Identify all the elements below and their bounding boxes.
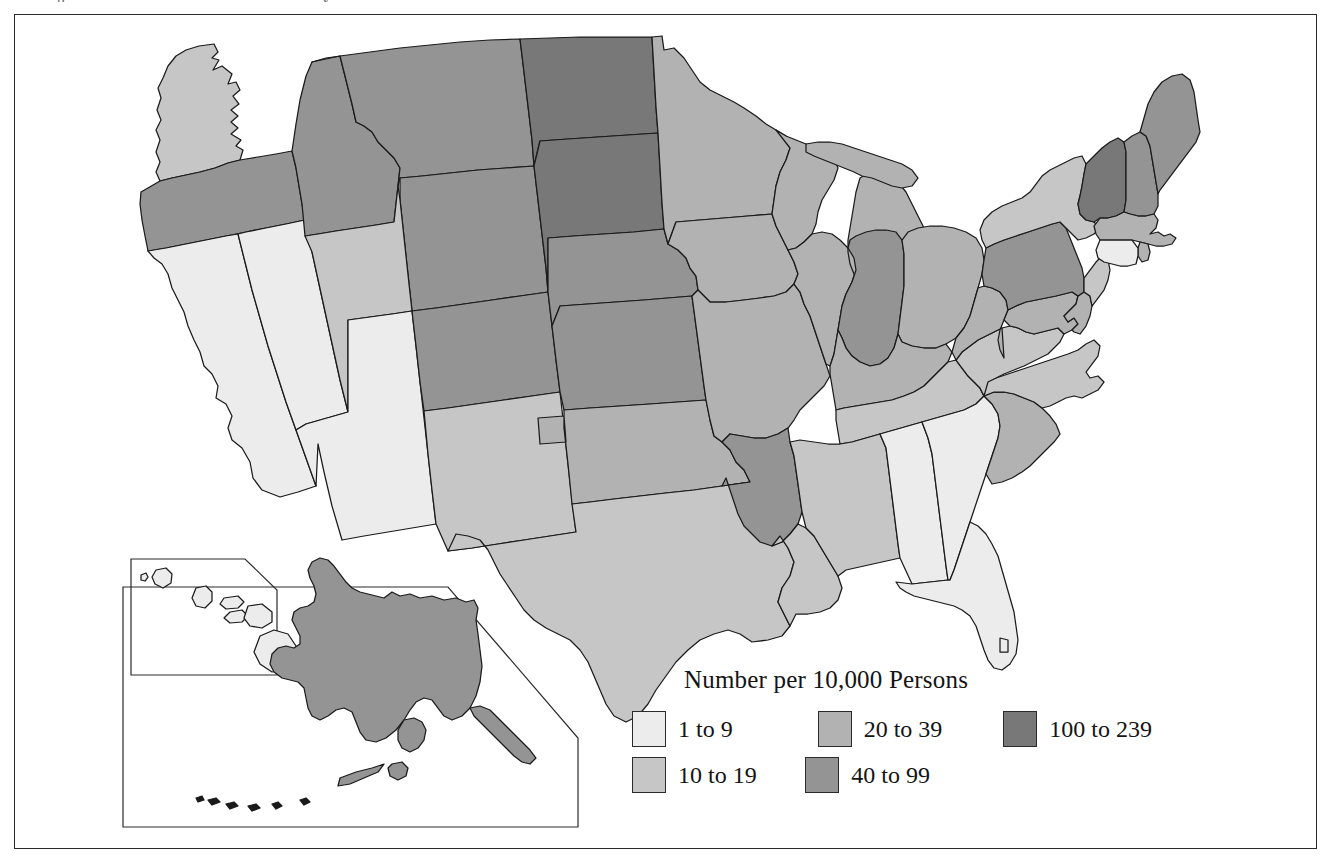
state-minnesota[interactable] bbox=[652, 36, 790, 244]
state-new-mexico[interactable] bbox=[424, 392, 576, 551]
legend-item-100-to-239[interactable]: 100 to 239 bbox=[1003, 711, 1152, 747]
state-washington[interactable] bbox=[156, 44, 243, 181]
map-legend: Number per 10,000 Persons 1 to 9 20 to 3… bbox=[632, 666, 1152, 798]
state-vermont[interactable] bbox=[1078, 138, 1126, 222]
legend-swatch-10-to-19 bbox=[632, 757, 666, 793]
legend-swatch-40-to-99 bbox=[805, 757, 839, 793]
state-colorado[interactable] bbox=[412, 292, 560, 411]
legend-swatch-20-to-39 bbox=[818, 711, 852, 747]
legend-title: Number per 10,000 Persons bbox=[684, 666, 1152, 694]
legend-label-1-to-9: 1 to 9 bbox=[678, 716, 733, 743]
legend-row-2: 10 to 19 40 to 99 bbox=[632, 752, 1152, 798]
legend-label-10-to-19: 10 to 19 bbox=[678, 762, 757, 789]
legend-label-40-to-99: 40 to 99 bbox=[851, 762, 930, 789]
state-kansas[interactable] bbox=[552, 296, 706, 410]
legend-swatch-100-to-239 bbox=[1003, 711, 1037, 747]
legend-label-100-to-239: 100 to 239 bbox=[1049, 716, 1152, 743]
state-wyoming[interactable] bbox=[400, 166, 548, 311]
legend-row-1: 1 to 9 20 to 39 100 to 239 bbox=[632, 706, 1152, 752]
legend-item-10-to-19[interactable]: 10 to 19 bbox=[632, 757, 805, 793]
choropleth-figure: p y bbox=[0, 0, 1329, 863]
state-rhode-island[interactable] bbox=[1138, 242, 1150, 262]
legend-item-20-to-39[interactable]: 20 to 39 bbox=[818, 711, 1004, 747]
legend-item-1-to-9[interactable]: 1 to 9 bbox=[632, 711, 818, 747]
legend-swatch-1-to-9 bbox=[632, 711, 666, 747]
legend-label-20-to-39: 20 to 39 bbox=[864, 716, 943, 743]
state-alaska[interactable] bbox=[196, 558, 536, 811]
legend-item-40-to-99[interactable]: 40 to 99 bbox=[805, 757, 978, 793]
